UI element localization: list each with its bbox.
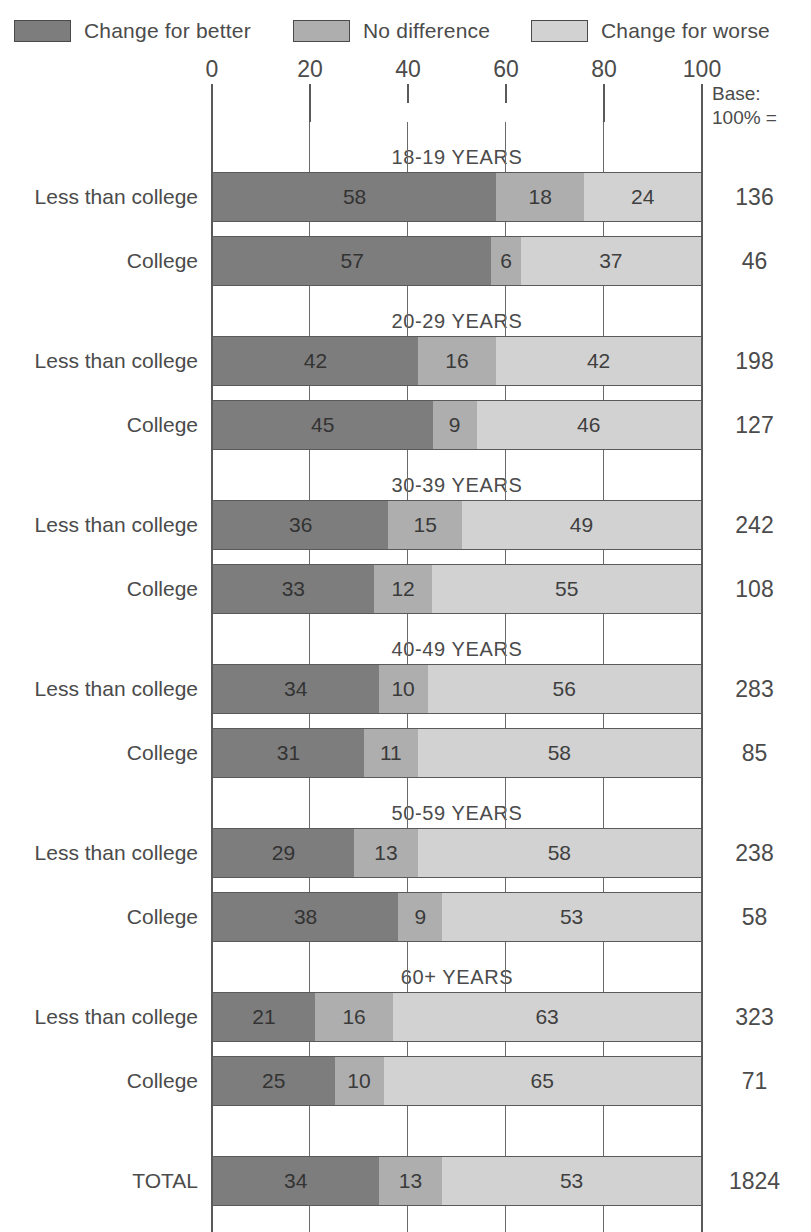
row-label: College bbox=[0, 564, 198, 614]
gridline bbox=[407, 222, 408, 236]
gridline bbox=[407, 1206, 408, 1232]
stacked-bar: 581824 bbox=[212, 172, 702, 222]
bar-segment-same: 9 bbox=[433, 400, 477, 450]
bar-segment-worse: 42 bbox=[496, 336, 702, 386]
row-base-value: 127 bbox=[702, 400, 807, 450]
gridline bbox=[407, 450, 408, 500]
table-row: College25106571 bbox=[0, 1056, 811, 1106]
bar-segment-better: 21 bbox=[212, 992, 315, 1042]
gridline bbox=[603, 878, 604, 892]
stacked-bar: 341056 bbox=[212, 664, 702, 714]
gridline bbox=[603, 286, 604, 336]
gridline bbox=[505, 286, 506, 336]
gridline bbox=[309, 614, 310, 664]
row-label: College bbox=[0, 892, 198, 942]
gridline bbox=[603, 450, 604, 500]
bar-segment-better: 34 bbox=[212, 1156, 379, 1206]
bar-segment-same: 9 bbox=[398, 892, 442, 942]
stacked-bar: 361549 bbox=[212, 500, 702, 550]
legend-swatch-better bbox=[14, 20, 71, 42]
bar-segment-worse: 65 bbox=[384, 1056, 703, 1106]
bar-segment-same: 12 bbox=[374, 564, 433, 614]
gridline bbox=[505, 122, 506, 172]
table-row: College45946127 bbox=[0, 400, 811, 450]
gridline bbox=[407, 386, 408, 400]
bar-segment-worse: 58 bbox=[418, 728, 702, 778]
stacked-bar: 57637 bbox=[212, 236, 702, 286]
gridline bbox=[603, 778, 604, 828]
row-label: College bbox=[0, 1056, 198, 1106]
legend-label-same: No difference bbox=[363, 19, 490, 43]
row-label: College bbox=[0, 728, 198, 778]
gridline bbox=[505, 1106, 506, 1156]
row-base-value: 71 bbox=[702, 1056, 807, 1106]
row-base-value: 238 bbox=[702, 828, 807, 878]
stacked-bar: 38953 bbox=[212, 892, 702, 942]
row-label: Less than college bbox=[0, 336, 198, 386]
gridline bbox=[407, 714, 408, 728]
bar-segment-worse: 56 bbox=[428, 664, 702, 714]
gridline bbox=[603, 614, 604, 664]
bar-segment-worse: 46 bbox=[477, 400, 702, 450]
bar-segment-better: 36 bbox=[212, 500, 388, 550]
gridline bbox=[603, 386, 604, 400]
plot-left-edge bbox=[211, 122, 213, 1232]
group-title-5: 60+ YEARS bbox=[212, 966, 702, 989]
row-label: Less than college bbox=[0, 828, 198, 878]
gridline bbox=[603, 942, 604, 992]
bar-segment-same: 15 bbox=[388, 500, 462, 550]
group-title-3: 40-49 YEARS bbox=[212, 638, 702, 661]
legend-item-worse: Change for worse bbox=[531, 14, 770, 48]
group-title-0: 18-19 YEARS bbox=[212, 146, 702, 169]
gridline bbox=[407, 614, 408, 664]
bar-segment-better: 58 bbox=[212, 172, 496, 222]
stacked-bar: 421642 bbox=[212, 336, 702, 386]
row-base-value: 323 bbox=[702, 992, 807, 1042]
base-column-header: Base: 100% = bbox=[712, 82, 777, 130]
gridline bbox=[603, 1106, 604, 1156]
bar-segment-same: 18 bbox=[496, 172, 584, 222]
x-tick-mark-20 bbox=[309, 84, 311, 122]
row-base-value: 242 bbox=[702, 500, 807, 550]
gridline bbox=[309, 286, 310, 336]
gridline bbox=[309, 1206, 310, 1232]
bar-segment-same: 11 bbox=[364, 728, 418, 778]
table-row: Less than college361549242 bbox=[0, 500, 811, 550]
group-title-2: 30-39 YEARS bbox=[212, 474, 702, 497]
gridline bbox=[309, 550, 310, 564]
legend-item-same: No difference bbox=[293, 14, 490, 48]
table-row: College5763746 bbox=[0, 236, 811, 286]
x-axis-tick-labels: 020406080100 bbox=[0, 56, 811, 82]
bar-segment-same: 10 bbox=[379, 664, 428, 714]
legend-swatch-worse bbox=[531, 20, 588, 42]
group-title-1: 20-29 YEARS bbox=[212, 310, 702, 333]
gridline bbox=[309, 222, 310, 236]
gridline bbox=[407, 1042, 408, 1056]
bar-segment-worse: 63 bbox=[393, 992, 702, 1042]
x-tick-label-0: 0 bbox=[206, 56, 219, 83]
x-tick-label-60: 60 bbox=[493, 56, 519, 83]
bar-segment-worse: 58 bbox=[418, 828, 702, 878]
bar-segment-better: 31 bbox=[212, 728, 364, 778]
row-label: Less than college bbox=[0, 664, 198, 714]
bar-segment-worse: 37 bbox=[521, 236, 702, 286]
x-tick-label-20: 20 bbox=[297, 56, 323, 83]
legend-label-worse: Change for worse bbox=[601, 19, 770, 43]
gridline bbox=[505, 614, 506, 664]
plot-right-edge bbox=[701, 122, 703, 1232]
gridline bbox=[505, 550, 506, 564]
legend-label-better: Change for better bbox=[84, 19, 251, 43]
bar-segment-better: 29 bbox=[212, 828, 354, 878]
bar-segment-better: 38 bbox=[212, 892, 398, 942]
bar-segment-worse: 53 bbox=[442, 892, 702, 942]
table-row: College331255108 bbox=[0, 564, 811, 614]
row-label: College bbox=[0, 400, 198, 450]
gridline bbox=[407, 878, 408, 892]
bar-segment-same: 16 bbox=[315, 992, 393, 1042]
row-base-value: 283 bbox=[702, 664, 807, 714]
gridline bbox=[603, 222, 604, 236]
legend-item-better: Change for better bbox=[14, 14, 251, 48]
bar-segment-better: 45 bbox=[212, 400, 433, 450]
gridline bbox=[505, 1206, 506, 1232]
